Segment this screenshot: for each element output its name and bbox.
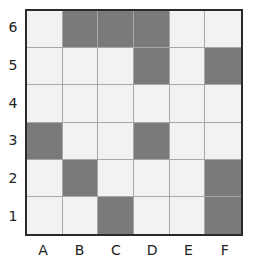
cell-C1 — [98, 197, 134, 234]
cell-A2 — [27, 160, 63, 197]
row-label-1: 1 — [6, 208, 20, 224]
cell-D4 — [134, 85, 170, 122]
cell-D6 — [134, 11, 170, 48]
cell-B3 — [63, 123, 99, 160]
cell-C5 — [98, 48, 134, 85]
cell-E4 — [170, 85, 206, 122]
cell-A1 — [27, 197, 63, 234]
cell-B5 — [63, 48, 99, 85]
cell-B2 — [63, 160, 99, 197]
cell-E6 — [170, 11, 206, 48]
cell-B4 — [63, 85, 99, 122]
column-label-A: A — [25, 242, 61, 258]
cell-D5 — [134, 48, 170, 85]
column-label-C: C — [98, 242, 134, 258]
cell-A3 — [27, 123, 63, 160]
row-label-3: 3 — [6, 132, 20, 148]
cell-F5 — [205, 48, 241, 85]
cell-E3 — [170, 123, 206, 160]
cell-C4 — [98, 85, 134, 122]
cell-A4 — [27, 85, 63, 122]
cell-A6 — [27, 11, 63, 48]
row-label-5: 5 — [6, 57, 20, 73]
cell-A5 — [27, 48, 63, 85]
cell-D3 — [134, 123, 170, 160]
cell-B1 — [63, 197, 99, 234]
cell-D1 — [134, 197, 170, 234]
column-label-E: E — [171, 242, 207, 258]
column-label-D: D — [134, 242, 170, 258]
row-label-2: 2 — [6, 170, 20, 186]
cell-F4 — [205, 85, 241, 122]
row-label-4: 4 — [6, 95, 20, 111]
cell-B6 — [63, 11, 99, 48]
cell-C2 — [98, 160, 134, 197]
column-label-F: F — [207, 242, 243, 258]
column-label-B: B — [62, 242, 98, 258]
grid — [25, 9, 243, 236]
cell-F3 — [205, 123, 241, 160]
cell-C6 — [98, 11, 134, 48]
cell-C3 — [98, 123, 134, 160]
cell-E2 — [170, 160, 206, 197]
cell-F6 — [205, 11, 241, 48]
cell-F2 — [205, 160, 241, 197]
row-label-6: 6 — [6, 19, 20, 35]
cell-E5 — [170, 48, 206, 85]
cell-F1 — [205, 197, 241, 234]
cell-E1 — [170, 197, 206, 234]
cell-D2 — [134, 160, 170, 197]
